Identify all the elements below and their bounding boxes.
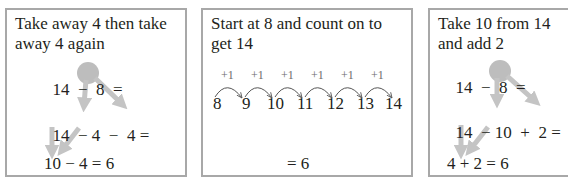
equation-row-1: 14 − 8 =	[447, 62, 526, 96]
operator: +	[520, 123, 530, 142]
operator: −	[78, 126, 88, 145]
title-line: away 4 again	[15, 34, 167, 54]
highlighted-operand: 8	[96, 80, 105, 99]
operand: 14	[53, 126, 70, 145]
step-label: +1	[311, 69, 324, 81]
count-number: 14	[385, 95, 402, 112]
operand: 14	[456, 123, 473, 142]
title-line: get 14	[211, 34, 382, 54]
count-number: 12	[327, 95, 344, 112]
count-number: 13	[357, 95, 374, 112]
title-line: Take 10 from 14	[438, 14, 551, 34]
operator: −	[109, 126, 119, 145]
panel-title: Start at 8 and count on to get 14	[211, 14, 382, 54]
title-line: Take away 4 then take	[15, 14, 167, 34]
equation-row-2: 14 − 10 + 2 =	[447, 107, 561, 141]
title-line: and add 2	[438, 34, 551, 54]
title-line: Start at 8 and count on to	[211, 14, 382, 34]
equation-result: 4 + 2 = 6	[447, 155, 509, 172]
operator: −	[481, 123, 491, 142]
operator: −	[78, 80, 88, 99]
panel-count-on: Start at 8 and count on to get 14	[201, 8, 413, 177]
operand: 10	[495, 123, 512, 142]
operator: =	[140, 126, 150, 145]
count-number: 8	[213, 95, 222, 112]
count-result: = 6	[287, 155, 309, 172]
operand: 14	[456, 78, 473, 97]
equation-row-1: 14 − 8 =	[44, 64, 123, 98]
operator: =	[551, 123, 561, 142]
highlighted-operand: 8	[499, 78, 508, 97]
operator: =	[516, 78, 526, 97]
panel-title: Take away 4 then take away 4 again	[15, 14, 167, 54]
equation-result: 10 − 4 = 6	[44, 155, 114, 172]
step-label: +1	[341, 69, 354, 81]
operand: 14	[53, 80, 70, 99]
operand: 2	[538, 123, 547, 142]
panel-title: Take 10 from 14 and add 2	[438, 14, 551, 54]
count-number: 11	[297, 95, 313, 112]
operator: −	[481, 78, 491, 97]
operator: =	[113, 80, 123, 99]
step-label: +1	[251, 69, 264, 81]
equation-row-2: 14 − 4 − 4 =	[44, 110, 149, 144]
step-label: +1	[371, 69, 384, 81]
step-label: +1	[221, 69, 234, 81]
count-number: 9	[242, 95, 251, 112]
count-number: 10	[267, 95, 284, 112]
step-label: +1	[281, 69, 294, 81]
